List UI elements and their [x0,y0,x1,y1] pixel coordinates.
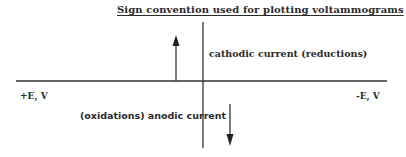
positive-potential-label: +E, V [20,92,48,101]
diagram-title: Sign convention used for plotting voltam… [117,5,404,15]
negative-potential-label: -E, V [356,92,380,101]
anodic-current-arrow [227,104,234,146]
arrow-down-icon [227,134,234,146]
anodic-current-label: (oxidations) anodic current [80,111,226,121]
cathodic-current-arrow [173,35,180,81]
arrow-up-icon [173,35,180,46]
sign-convention-diagram [0,0,406,157]
cathodic-current-label: cathodic current (reductions) [209,49,367,59]
